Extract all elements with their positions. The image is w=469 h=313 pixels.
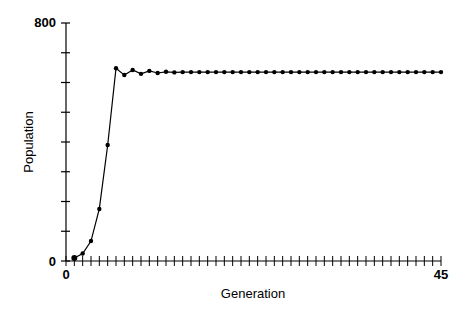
data-point bbox=[105, 143, 109, 147]
data-point bbox=[364, 70, 368, 74]
data-point bbox=[197, 70, 201, 74]
data-point bbox=[439, 70, 443, 74]
data-point bbox=[372, 70, 376, 74]
data-point bbox=[230, 70, 234, 74]
data-point bbox=[239, 70, 243, 74]
data-point bbox=[430, 70, 434, 74]
data-point bbox=[147, 69, 151, 73]
y-axis-title: Population bbox=[21, 111, 36, 172]
data-point bbox=[330, 70, 334, 74]
data-point bbox=[322, 70, 326, 74]
x-axis bbox=[66, 256, 441, 266]
series-line bbox=[74, 68, 441, 258]
data-point bbox=[405, 70, 409, 74]
data-point bbox=[205, 70, 209, 74]
data-point bbox=[214, 70, 218, 74]
data-point bbox=[422, 70, 426, 74]
data-point bbox=[389, 70, 393, 74]
data-point bbox=[164, 70, 168, 74]
data-point bbox=[264, 70, 268, 74]
data-point bbox=[272, 70, 276, 74]
data-point bbox=[139, 72, 143, 76]
x-axis-title: Generation bbox=[221, 286, 285, 301]
series-population bbox=[71, 66, 443, 261]
data-point bbox=[130, 68, 134, 72]
y-tick-label-max: 800 bbox=[34, 15, 56, 30]
data-point bbox=[122, 73, 126, 77]
data-point bbox=[397, 70, 401, 74]
data-point bbox=[297, 70, 301, 74]
data-point bbox=[189, 70, 193, 74]
data-point bbox=[339, 70, 343, 74]
y-tick-label-min: 0 bbox=[49, 254, 56, 269]
data-point bbox=[355, 70, 359, 74]
data-point bbox=[97, 207, 101, 211]
data-point bbox=[155, 71, 159, 75]
data-point bbox=[414, 70, 418, 74]
data-point bbox=[80, 251, 84, 255]
data-point bbox=[180, 70, 184, 74]
data-point bbox=[314, 70, 318, 74]
data-point bbox=[305, 70, 309, 74]
x-tick-label-max: 45 bbox=[434, 267, 448, 282]
data-point bbox=[172, 70, 176, 74]
data-point bbox=[114, 66, 118, 70]
data-point bbox=[247, 70, 251, 74]
data-point bbox=[71, 255, 77, 261]
population-chart: 800 0 0 45 Generation Population bbox=[0, 0, 469, 313]
data-point bbox=[89, 239, 93, 243]
data-point bbox=[280, 70, 284, 74]
data-point bbox=[380, 70, 384, 74]
data-point bbox=[255, 70, 259, 74]
data-point bbox=[222, 70, 226, 74]
x-tick-label-min: 0 bbox=[62, 267, 69, 282]
y-axis bbox=[61, 23, 70, 261]
data-point bbox=[289, 70, 293, 74]
data-point bbox=[347, 70, 351, 74]
